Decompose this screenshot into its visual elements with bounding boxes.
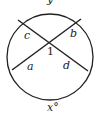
label-segment-b: b xyxy=(70,27,77,40)
label-top-arc: y° xyxy=(46,0,59,6)
label-angle-1: 1 xyxy=(47,45,54,58)
label-bottom-arc: x° xyxy=(47,101,59,114)
label-segment-c: c xyxy=(24,29,30,42)
chord-diagram: y° c b 1 a d x° xyxy=(0,0,100,116)
label-segment-a: a xyxy=(27,60,34,73)
label-segment-d: d xyxy=(63,59,70,72)
